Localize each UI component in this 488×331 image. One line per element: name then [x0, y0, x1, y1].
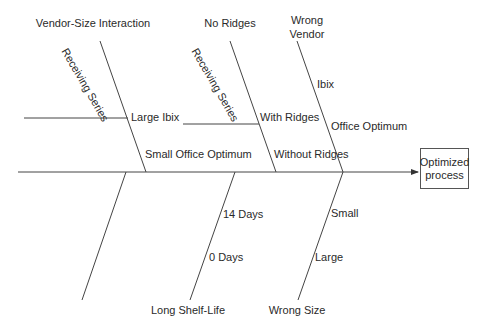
cause-small-office-optimum: Small Office Optimum — [145, 148, 252, 161]
category-label-wrong-vendor-line2: Vendor — [290, 28, 325, 41]
cause-ibix: Ibix — [317, 78, 334, 91]
cause-large-ibix: Large Ibix — [131, 111, 179, 124]
cause-large: Large — [315, 251, 343, 264]
effect-label-line2: process — [425, 169, 464, 182]
category-label-wrong-size: Wrong Size — [269, 304, 326, 317]
effect-box: Optimized process — [420, 148, 469, 189]
bone-vendor-size-interaction — [100, 41, 146, 172]
effect-label-line1: Optimized — [420, 156, 470, 169]
category-label-vendor-size-interaction: Vendor-Size Interaction — [36, 17, 150, 30]
bone-bottom-empty — [82, 172, 126, 300]
bone-wrong-size — [298, 172, 343, 300]
cause-small: Small — [331, 207, 359, 220]
category-label-no-ridges: No Ridges — [204, 17, 255, 30]
fishbone-diagram — [0, 0, 488, 331]
cause-office-optimum: Office Optimum — [331, 120, 407, 133]
bone-long-shelf-life — [190, 172, 235, 300]
cause-14-days: 14 Days — [223, 208, 263, 221]
cause-with-ridges: With Ridges — [260, 111, 319, 124]
category-label-long-shelf-life: Long Shelf-Life — [151, 304, 225, 317]
category-label-wrong-vendor-line1: Wrong — [291, 14, 323, 27]
cause-0-days: 0 Days — [209, 251, 243, 264]
cause-without-ridges: Without Ridges — [274, 148, 349, 161]
